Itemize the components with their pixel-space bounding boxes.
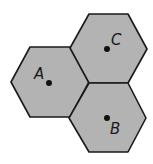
label-c: C [111, 31, 122, 49]
point-c [104, 46, 110, 52]
label-b: B [110, 120, 120, 138]
label-a: A [33, 65, 44, 83]
hexagon-diagram: A C B [0, 0, 153, 164]
point-a [46, 80, 52, 86]
